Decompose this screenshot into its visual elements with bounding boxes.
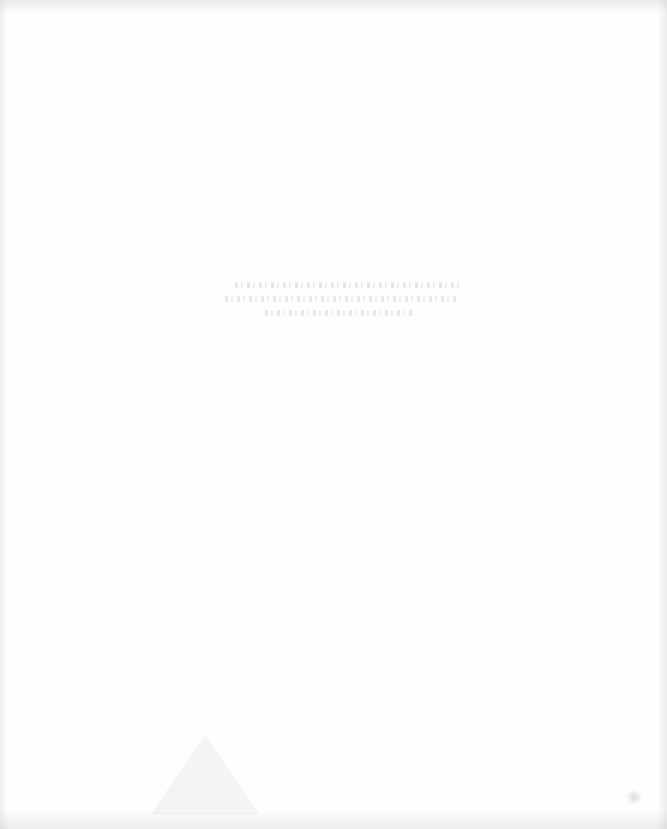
- faint-triangle-mark: [150, 735, 260, 815]
- bleed-line: [225, 296, 457, 302]
- bleed-line: [265, 310, 415, 316]
- scan-edge-bottom: [0, 811, 667, 829]
- bleed-line: [235, 282, 460, 288]
- scan-edge-top: [0, 0, 667, 14]
- scanned-page: nearly blank: [0, 0, 667, 829]
- scan-edge-left: [0, 0, 8, 829]
- bleed-through-text: [225, 282, 465, 324]
- scan-speck: [625, 790, 643, 804]
- scan-edge-right: [657, 0, 667, 829]
